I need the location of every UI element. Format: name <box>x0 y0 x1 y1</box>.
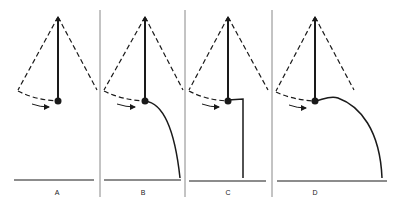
swing-arc <box>276 92 315 101</box>
swing-boundary-left <box>276 17 315 91</box>
pendulum-bob <box>142 98 149 105</box>
swing-boundary-right <box>145 17 183 90</box>
pivot-arrow-icon <box>312 16 318 21</box>
trajectory <box>145 101 180 178</box>
swing-arc <box>189 91 228 101</box>
panel-a <box>14 16 97 180</box>
panel-b <box>104 16 183 180</box>
panel-label-c: C <box>225 189 230 196</box>
pendulum-bob <box>225 98 232 105</box>
trajectory <box>315 97 382 178</box>
trajectory <box>228 99 243 178</box>
panel-d <box>276 16 387 181</box>
pivot-arrow-icon <box>142 16 148 21</box>
panel-c <box>189 16 268 181</box>
swing-arc <box>18 91 58 101</box>
panel-label-d: D <box>312 189 317 196</box>
panel-label-b: B <box>141 189 146 196</box>
swing-boundary-right <box>315 17 354 90</box>
swing-boundary-right <box>228 17 268 90</box>
motion-arrow <box>289 105 306 108</box>
swing-boundary-left <box>189 17 228 90</box>
motion-arrow <box>32 104 49 107</box>
panel-label-a: A <box>55 189 60 196</box>
pendulum-bob <box>55 98 62 105</box>
swing-arc <box>104 91 145 101</box>
motion-arrow <box>117 104 135 107</box>
swing-boundary-right <box>58 17 97 90</box>
swing-boundary-left <box>104 17 145 90</box>
pendulum-bob <box>312 98 319 105</box>
motion-arrow <box>202 104 219 107</box>
pivot-arrow-icon <box>55 16 61 21</box>
pendulum-diagram <box>0 0 402 204</box>
swing-boundary-left <box>18 17 58 90</box>
pivot-arrow-icon <box>225 16 231 21</box>
